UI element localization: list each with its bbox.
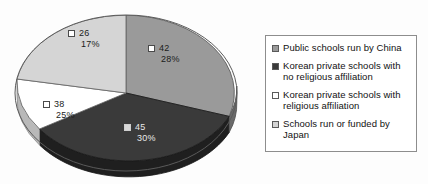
pie-slice-schools-run-funded-by-japan[interactable] [17,15,126,93]
pie-label-marker-icon [43,101,50,108]
legend-item-korean-private-religious[interactable]: Korean private schools with religious af… [272,89,411,112]
legend-item-schools-run-funded-by-japan[interactable]: Schools run or funded by Japan [272,118,411,141]
pie-chart-plot: 42 28% 45 30% 38 25% 26 17% [0,0,250,184]
pie-data-label-value: 26 [79,28,89,39]
legend-swatch-icon [272,92,279,99]
pie-chart-figure: 42 28% 45 30% 38 25% 26 17% [0,0,428,184]
legend-item-public-schools-run-by-china[interactable]: Public schools run by China [272,42,411,54]
pie-label-marker-icon [148,45,155,52]
legend-item-label: Korean private schools with religious af… [283,89,411,112]
legend-swatch-icon [272,63,279,70]
legend-item-label: Public schools run by China [283,42,402,54]
pie-data-label-value: 38 [54,99,64,110]
pie-data-label-percent: 28% [148,54,180,65]
legend-item-label: Schools run or funded by Japan [283,118,411,141]
legend-item-korean-private-no-religious[interactable]: Korean private schools with no religious… [272,60,411,83]
legend-swatch-icon [272,121,279,128]
pie-label-marker-icon [124,124,131,131]
pie-data-label-26: 26 17% [68,28,100,50]
pie-data-label-45: 45 30% [124,122,156,144]
pie-chart-svg [0,0,250,184]
pie-label-marker-icon [68,30,75,37]
pie-data-label-38: 38 25% [43,99,75,121]
pie-data-label-percent: 25% [43,110,75,121]
pie-data-label-value: 45 [135,122,145,133]
pie-data-label-percent: 17% [68,39,100,50]
legend-item-label: Korean private schools with no religious… [283,60,411,83]
pie-data-label-percent: 30% [124,133,156,144]
pie-data-label-value: 42 [159,43,169,54]
legend-swatch-icon [272,45,279,52]
chart-legend: Public schools run by China Korean priva… [265,35,417,152]
pie-data-label-42: 42 28% [148,43,180,65]
